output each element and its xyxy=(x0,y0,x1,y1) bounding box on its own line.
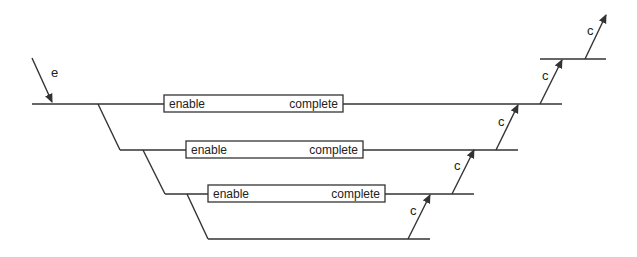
completion-arrow-label-2: c xyxy=(454,158,461,173)
entry-arrow-label: e xyxy=(51,65,58,80)
pipeline-diagram: enablecompleteenablecompleteenablecomple… xyxy=(0,0,637,257)
completion-arrow-label-5: c xyxy=(587,23,594,38)
arrows xyxy=(32,15,606,239)
complete-label: complete xyxy=(331,187,380,201)
enable-complete-box-2: enablecomplete xyxy=(186,141,363,158)
entry-arrow-icon xyxy=(32,58,52,102)
branch-line-2 xyxy=(143,150,165,194)
completion-arrow-label-3: c xyxy=(498,114,505,129)
complete-label: complete xyxy=(289,97,338,111)
branch-line-1 xyxy=(98,104,120,150)
completion-arrow-label-1: c xyxy=(410,203,417,218)
completion-arrow-label-4: c xyxy=(542,68,549,83)
enable-label: enable xyxy=(169,97,205,111)
enable-complete-boxes: enablecompleteenablecompleteenablecomple… xyxy=(164,95,385,202)
branch-lines xyxy=(98,104,208,239)
branch-line-3 xyxy=(187,194,208,239)
enable-complete-box-3: enablecomplete xyxy=(208,185,385,202)
enable-complete-box-1: enablecomplete xyxy=(164,95,343,112)
enable-label: enable xyxy=(191,143,227,157)
complete-label: complete xyxy=(309,143,358,157)
enable-label: enable xyxy=(213,187,249,201)
